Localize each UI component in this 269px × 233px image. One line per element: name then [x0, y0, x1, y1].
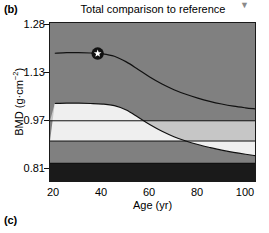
plot-frame [49, 22, 256, 182]
x-tick-label-2: 60 [129, 186, 169, 198]
chart-svg [50, 23, 255, 181]
title-marker-icon: ▼ [240, 0, 249, 10]
y-tick-label-0: 1.28 [1, 19, 45, 30]
x-tick-label-0: 20 [33, 186, 73, 198]
x-tick-label-1: 40 [81, 186, 121, 198]
band-severe [50, 163, 255, 181]
figure-panel-b: (b) Total comparison to reference ▼ 1.28… [0, 0, 269, 233]
y-tick-mark-3 [44, 168, 49, 169]
chart-title: Total comparison to reference [49, 3, 257, 15]
panel-label-c: (c) [4, 214, 17, 226]
y-axis-title: BMD (g·cm−2) [11, 37, 25, 167]
y-tick-mark-0 [44, 24, 49, 25]
plot-area [49, 22, 256, 182]
y-axis-title-close: ) [13, 68, 25, 72]
band-group [50, 23, 255, 181]
y-tick-mark-2 [44, 120, 49, 121]
y-tick-mark-1 [44, 72, 49, 73]
y-axis-title-base: BMD (g·cm [13, 80, 25, 136]
x-tick-label-3: 80 [177, 186, 217, 198]
band-above-normal [50, 23, 255, 181]
x-axis-title: Age (yr) [49, 199, 256, 211]
x-tick-label-4: 100 [225, 186, 265, 198]
patient-marker[interactable] [91, 47, 103, 59]
y-axis-title-exponent: −2 [11, 72, 20, 81]
